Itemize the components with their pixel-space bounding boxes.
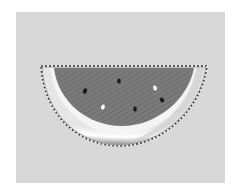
seed <box>117 78 121 83</box>
watermelon-illustration <box>0 0 233 196</box>
seed <box>133 106 137 112</box>
